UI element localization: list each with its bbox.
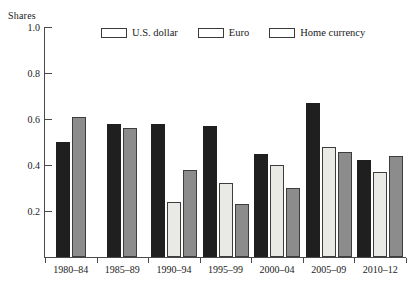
bar-home xyxy=(286,188,300,257)
bar-home xyxy=(338,152,352,257)
bar-usd xyxy=(107,124,121,257)
bar-group xyxy=(97,27,149,257)
x-axis-tick xyxy=(148,258,149,263)
x-axis-ticks xyxy=(45,258,406,263)
x-axis-label: 1980–84 xyxy=(45,264,97,275)
y-axis-tick-label: 0.6 xyxy=(4,114,40,125)
bar-group xyxy=(200,27,252,257)
bar-home xyxy=(123,128,137,257)
bar-group xyxy=(45,27,97,257)
x-axis-label: 2010–12 xyxy=(354,264,406,275)
bar-group xyxy=(303,27,355,257)
bar-home xyxy=(235,204,249,257)
y-axis-tick-label: 0.8 xyxy=(4,68,40,79)
bar-home xyxy=(72,117,86,257)
x-axis-tick xyxy=(45,258,46,263)
bar-group xyxy=(148,27,200,257)
x-axis-tick xyxy=(97,258,98,263)
x-axis-tick xyxy=(303,258,304,263)
x-axis-labels: 1980–841985–891990–941995–992000–042005–… xyxy=(45,264,406,275)
bar-usd xyxy=(357,160,371,257)
bar-groups xyxy=(45,27,406,257)
bar-group xyxy=(251,27,303,257)
y-axis-title: Shares xyxy=(8,10,36,21)
bar-eur xyxy=(219,183,233,257)
x-axis-tick xyxy=(251,258,252,263)
y-axis-tick-label: 0.2 xyxy=(4,206,40,217)
bar-chart: Shares 0.20.40.60.81.0 U.S. dollar Euro … xyxy=(0,0,414,286)
bar-eur xyxy=(270,165,284,257)
bar-group xyxy=(354,27,406,257)
bar-eur xyxy=(373,172,387,257)
bar-home xyxy=(183,170,197,257)
x-axis-tick xyxy=(354,258,355,263)
x-axis-tick xyxy=(200,258,201,263)
x-axis-label: 1995–99 xyxy=(200,264,252,275)
bar-eur xyxy=(167,202,181,257)
y-axis-tick-label: 0.4 xyxy=(4,160,40,171)
x-axis-tick xyxy=(406,258,407,263)
x-axis-label: 1985–89 xyxy=(97,264,149,275)
bar-usd xyxy=(151,124,165,257)
bar-usd xyxy=(254,154,268,258)
x-axis-label: 2005–09 xyxy=(303,264,355,275)
x-axis-label: 1990–94 xyxy=(148,264,200,275)
x-axis-label: 2000–04 xyxy=(251,264,303,275)
bar-usd xyxy=(56,142,70,257)
bar-home xyxy=(389,156,403,257)
bar-usd xyxy=(203,126,217,257)
bar-eur xyxy=(322,147,336,257)
y-axis-tick-label: 1.0 xyxy=(4,22,40,33)
bar-usd xyxy=(306,103,320,257)
